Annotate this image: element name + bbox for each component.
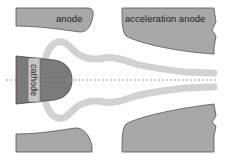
anode-bottom [16, 128, 92, 152]
anode-label: anode [56, 13, 82, 24]
electron-gun-diagram: anode acceleration anode cathode [0, 0, 227, 161]
acceleration-anode-bottom [122, 104, 216, 152]
acceleration-anode-label: acceleration anode [125, 13, 205, 24]
cathode-label: cathode [29, 64, 39, 96]
